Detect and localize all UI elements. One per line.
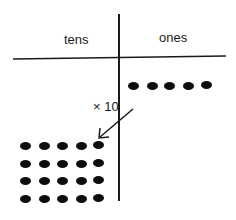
dot xyxy=(76,160,87,168)
dot xyxy=(39,177,50,185)
dot xyxy=(20,160,31,168)
header-underline xyxy=(13,56,226,59)
times-ten-label: × 10 xyxy=(93,100,119,113)
dot xyxy=(20,177,31,185)
dot xyxy=(57,195,68,203)
dot xyxy=(93,141,104,149)
dot xyxy=(93,194,104,202)
dot xyxy=(164,82,175,90)
dot xyxy=(20,142,31,150)
dot xyxy=(93,176,104,184)
dot xyxy=(201,81,212,89)
dot xyxy=(128,82,139,90)
dot xyxy=(39,160,50,168)
dot xyxy=(39,195,50,203)
dot xyxy=(183,82,194,90)
dot xyxy=(20,195,31,203)
dot xyxy=(76,142,87,150)
dot xyxy=(76,177,87,185)
dot xyxy=(76,195,87,203)
dot xyxy=(57,177,68,185)
dot xyxy=(93,159,104,167)
dot xyxy=(147,82,158,90)
dot xyxy=(39,142,50,150)
dot xyxy=(57,160,68,168)
place-value-diagram: tens ones × 10 xyxy=(0,0,236,220)
dot xyxy=(57,142,68,150)
